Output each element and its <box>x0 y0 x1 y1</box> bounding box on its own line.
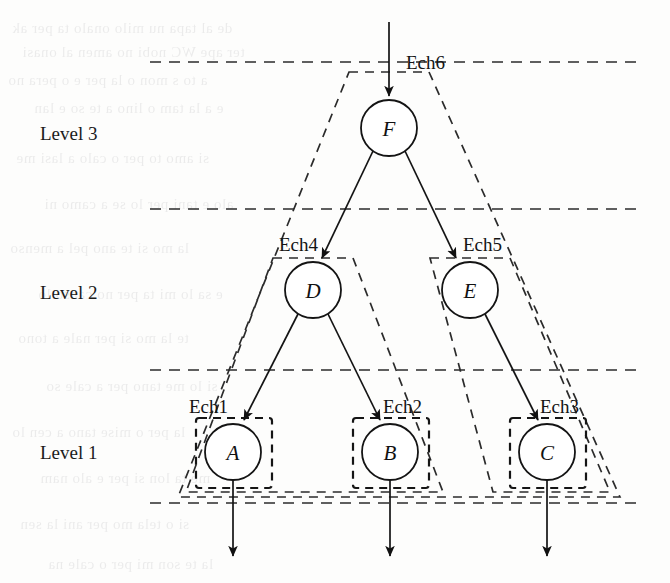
scope-label-ech2: Ech2 <box>383 396 422 418</box>
edge-E-to-C <box>485 314 538 420</box>
edge-D-to-B <box>328 314 380 420</box>
node-label-B: B <box>384 441 397 466</box>
level-label-3: Level 3 <box>40 123 98 145</box>
scanned-page: de al tapa nu milo onalo ta per akter ap… <box>0 0 670 583</box>
scope-label-ech5: Ech5 <box>463 234 502 256</box>
edge-D-to-A <box>244 314 298 420</box>
node-label-C: C <box>540 441 554 466</box>
node-label-F: F <box>383 117 396 142</box>
node-label-A: A <box>227 441 240 466</box>
node-label-E: E <box>464 279 477 304</box>
edge-F-to-E <box>405 151 456 258</box>
level-label-1: Level 1 <box>40 442 98 464</box>
scope-label-ech3: Ech3 <box>540 396 579 418</box>
edge-F-to-D <box>322 151 373 258</box>
node-label-D: D <box>305 279 320 304</box>
scope-label-ech6: Ech6 <box>406 52 445 74</box>
scope-label-ech4: Ech4 <box>279 234 318 256</box>
hierarchy-diagram <box>0 0 670 583</box>
scope-label-ech1: Ech1 <box>189 396 228 418</box>
level-label-2: Level 2 <box>40 282 98 304</box>
